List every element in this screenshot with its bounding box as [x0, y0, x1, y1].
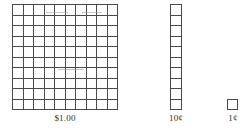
grid-cell: [24, 5, 35, 16]
grid-cell: [97, 100, 108, 111]
grid-cell: [55, 100, 66, 111]
grid-cell: [97, 68, 108, 79]
grid-cell: [13, 100, 24, 111]
grid-cell: [55, 89, 66, 100]
grid-cell: [24, 100, 35, 111]
grid-cell: [34, 5, 45, 16]
grid-cell: [97, 5, 108, 16]
grid-cell: [66, 5, 77, 16]
grid-cell: [66, 58, 77, 69]
grid-cell: [45, 89, 56, 100]
grid-cell: [34, 47, 45, 58]
grid-cell: [97, 16, 108, 27]
grid-cell: [24, 47, 35, 58]
ten-rod-label: 10¢: [160, 113, 192, 123]
grid-cell: [34, 79, 45, 90]
grid-cell: [108, 58, 119, 69]
grid-cell: [55, 47, 66, 58]
grid-cell: [87, 89, 98, 100]
grid-cell: [55, 16, 66, 27]
grid-cell: [76, 79, 87, 90]
grid-cell: [24, 26, 35, 37]
grid-cell: [76, 16, 87, 27]
grid-cell: [13, 58, 24, 69]
grid-cell: [66, 100, 77, 111]
grid-cell: [108, 79, 119, 90]
grid-cell: [45, 79, 56, 90]
grid-cell: [55, 68, 66, 79]
grid-cell: [34, 68, 45, 79]
grid-cell: [13, 5, 24, 16]
grid-cell: [55, 37, 66, 48]
grid-cell: [13, 16, 24, 27]
grid-cell: [24, 58, 35, 69]
one-unit-label: 1¢: [219, 113, 247, 123]
grid-cell: [24, 37, 35, 48]
grid-cell: [108, 37, 119, 48]
grid-cell: [13, 47, 24, 58]
grid-cell: [55, 58, 66, 69]
grid-cell: [66, 16, 77, 27]
grid-cell: [76, 5, 87, 16]
grid-cell: [171, 79, 182, 90]
grid-cell: [76, 47, 87, 58]
grid-cell: [45, 26, 56, 37]
grid-cell: [228, 100, 238, 110]
grid-cell: [66, 79, 77, 90]
grid-cell: [108, 89, 119, 100]
grid-cell: [76, 26, 87, 37]
ten-rod-grid: [170, 4, 182, 110]
grid-cell: [45, 47, 56, 58]
grid-cell: [55, 26, 66, 37]
grid-cell: [108, 47, 119, 58]
grid-cell: [87, 16, 98, 27]
grid-cell: [108, 5, 119, 16]
grid-cell: [87, 37, 98, 48]
grid-cell: [171, 89, 182, 100]
grid-cell: [24, 89, 35, 100]
grid-cell: [87, 58, 98, 69]
grid-cell: [97, 89, 108, 100]
hundred-flat-grid: [12, 4, 118, 110]
grid-cell: [76, 100, 87, 111]
grid-cell: [45, 16, 56, 27]
grid-cell: [87, 79, 98, 90]
grid-cell: [24, 68, 35, 79]
grid-cell: [171, 16, 182, 27]
grid-cell: [45, 5, 56, 16]
grid-cell: [66, 37, 77, 48]
grid-cell: [34, 37, 45, 48]
grid-cell: [66, 89, 77, 100]
grid-cell: [34, 26, 45, 37]
grid-cell: [171, 68, 182, 79]
one-unit-grid: [227, 99, 238, 110]
grid-cell: [24, 16, 35, 27]
grid-cell: [108, 26, 119, 37]
grid-cell: [87, 5, 98, 16]
grid-cell: [76, 89, 87, 100]
grid-cell: [34, 58, 45, 69]
grid-cell: [55, 5, 66, 16]
grid-cell: [34, 16, 45, 27]
grid-cell: [45, 58, 56, 69]
grid-cell: [76, 68, 87, 79]
grid-cell: [55, 79, 66, 90]
grid-cell: [13, 37, 24, 48]
grid-cell: [45, 100, 56, 111]
grid-cell: [66, 26, 77, 37]
grid-cell: [76, 37, 87, 48]
grid-cell: [171, 47, 182, 58]
grid-cell: [87, 47, 98, 58]
grid-cell: [97, 47, 108, 58]
grid-cell: [171, 58, 182, 69]
grid-cell: [97, 26, 108, 37]
grid-cell: [87, 100, 98, 111]
grid-cell: [171, 26, 182, 37]
grid-cell: [13, 68, 24, 79]
grid-cell: [97, 79, 108, 90]
grid-cell: [13, 26, 24, 37]
grid-cell: [76, 58, 87, 69]
grid-cell: [171, 37, 182, 48]
grid-cell: [171, 100, 182, 111]
grid-cell: [66, 47, 77, 58]
